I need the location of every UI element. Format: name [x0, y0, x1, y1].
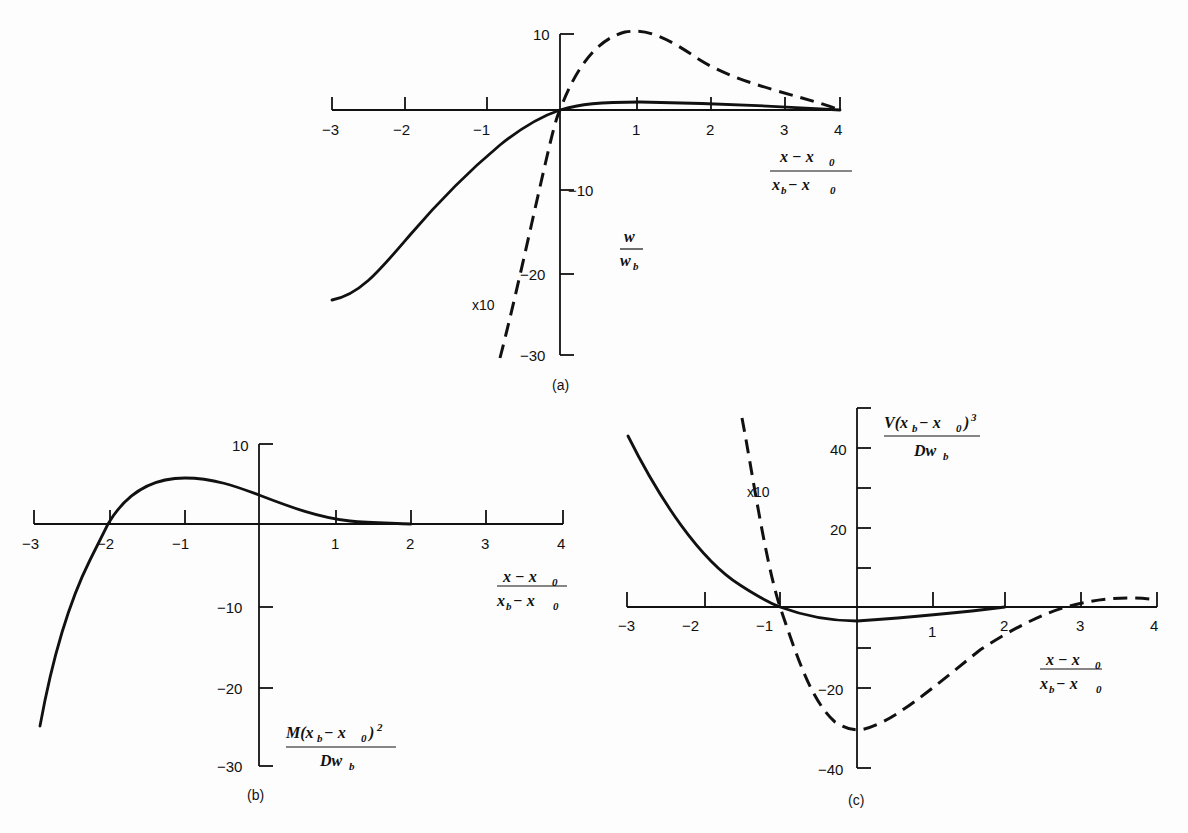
panel-c-caption: (c)	[848, 792, 864, 808]
panel-b-xtick-1: 1	[331, 535, 339, 552]
panel-b: −3 −2 −1 1 2 3 4 10 −10 −20 −30 x − x 0 …	[22, 437, 567, 803]
panel-a-dashed-curve-x10	[500, 31, 840, 358]
panel-b-ytick-m10: −10	[217, 599, 242, 616]
svg-text:0: 0	[829, 156, 835, 168]
svg-text:b: b	[349, 760, 355, 772]
panel-b-x-label: x − x 0 x b − x 0	[496, 568, 567, 612]
panel-a-ytick-m30: −30	[520, 347, 545, 364]
svg-text:b: b	[781, 184, 787, 196]
panel-b-ytick-m30: −30	[217, 758, 242, 775]
svg-text:− x: − x	[324, 724, 346, 741]
panel-c-ytick-m40: −40	[818, 761, 843, 778]
svg-text:0: 0	[1096, 683, 1102, 695]
svg-text:x: x	[1039, 675, 1048, 692]
panel-c-xtick-m3: −3	[618, 617, 635, 634]
svg-text:b: b	[633, 260, 639, 272]
svg-text:M(x: M(x	[285, 724, 314, 742]
panel-c-solid-curve	[628, 436, 1005, 621]
panel-c-y-label: V(x b − x 0 ) 3 Dw b	[852, 411, 980, 462]
panel-a-xtick-4: 4	[834, 121, 842, 138]
panel-b-xtick-4: 4	[557, 535, 565, 552]
panel-a-caption: (a)	[552, 377, 569, 393]
svg-text:b: b	[506, 600, 512, 612]
svg-text:2: 2	[376, 721, 383, 733]
panel-b-xtick-3: 3	[481, 535, 489, 552]
panel-b-xtick-2: 2	[406, 535, 414, 552]
svg-text:− x: − x	[513, 592, 535, 609]
panel-c: −3 −2 −1 1 2 3 4 40 20 −20 −40	[618, 408, 1158, 808]
figure-canvas: −3 −2 −1 1 2 3 4 10 −10 −20 −30 x10 x − …	[0, 0, 1188, 833]
svg-text:x − x: x − x	[779, 148, 814, 165]
svg-text:− x: − x	[788, 176, 810, 193]
panel-a-ytick-m10: −10	[568, 182, 593, 199]
panel-c-ytick-40: 40	[830, 441, 847, 458]
svg-text:b: b	[943, 450, 949, 462]
panel-c-x10-annotation: x10	[747, 484, 770, 500]
svg-text:0: 0	[553, 600, 559, 612]
panel-c-xtick-4: 4	[1150, 617, 1158, 634]
svg-text:x: x	[496, 592, 505, 609]
svg-text:b: b	[317, 732, 323, 744]
panel-b-ytick-10: 10	[232, 437, 249, 454]
svg-text:b: b	[912, 422, 918, 434]
svg-text:V(x: V(x	[884, 414, 908, 432]
panel-c-xtick-2: 2	[1000, 617, 1008, 634]
svg-text:x: x	[771, 176, 780, 193]
panel-c-ytick-20: 20	[830, 521, 847, 538]
panel-b-y-label: M(x b − x 0 ) 2 Dw b	[285, 721, 396, 772]
svg-text:x − x: x − x	[502, 568, 537, 585]
svg-text:Dw: Dw	[319, 752, 343, 769]
panel-b-xtick-m1: −1	[172, 535, 189, 552]
panel-c-xtick-3: 3	[1076, 617, 1084, 634]
panel-a-xtick-1: 1	[632, 121, 640, 138]
panel-a-x10-annotation: x10	[472, 297, 495, 313]
panel-a-ytick-10: 10	[533, 26, 550, 43]
panel-c-xtick-1: 1	[928, 623, 936, 640]
panel-a-xtick-m2: −2	[393, 121, 410, 138]
panel-a-xtick-m3: −3	[322, 121, 339, 138]
panel-c-x-label: x − x 0 x b − x 0	[1039, 651, 1102, 695]
svg-text:0: 0	[361, 732, 367, 744]
svg-text:− x: − x	[919, 414, 941, 431]
svg-text:0: 0	[956, 422, 962, 434]
panel-b-caption: (b)	[247, 787, 264, 803]
svg-text:): )	[962, 414, 969, 432]
svg-text:x − x: x − x	[1045, 651, 1080, 668]
svg-text:Dw: Dw	[913, 442, 937, 459]
svg-text:w: w	[624, 228, 635, 245]
panel-c-dashed-curve-x10	[742, 418, 1157, 730]
panel-c-xtick-m1: −1	[756, 617, 773, 634]
panel-a-x-label: x − x 0 x b − x 0	[770, 148, 852, 196]
panel-c-ytick-m20: −20	[818, 681, 843, 698]
svg-text:0: 0	[830, 184, 836, 196]
svg-text:− x: − x	[1056, 675, 1078, 692]
panel-c-xtick-m2: −2	[682, 617, 699, 634]
svg-text:): )	[367, 724, 374, 742]
panel-a-y-label: w w b	[620, 228, 643, 272]
panel-a-xtick-m1: −1	[473, 121, 490, 138]
panel-b-xtick-m3: −3	[22, 535, 39, 552]
panel-a-xtick-2: 2	[706, 121, 714, 138]
svg-text:3: 3	[970, 411, 977, 423]
panel-a-ytick-m20: −20	[520, 266, 545, 283]
panel-b-ytick-m20: −20	[217, 680, 242, 697]
svg-text:w: w	[620, 252, 631, 269]
svg-text:b: b	[1049, 683, 1055, 695]
panel-a-xtick-3: 3	[780, 121, 788, 138]
panel-a: −3 −2 −1 1 2 3 4 10 −10 −20 −30 x10 x − …	[322, 26, 852, 393]
